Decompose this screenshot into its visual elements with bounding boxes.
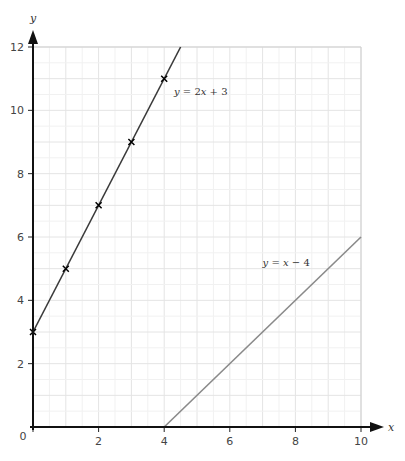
y-tick-label: 6 <box>17 231 24 244</box>
line-chart: 24681024681012 y = 2x + 3y = x − 4 y x 0 <box>0 0 405 461</box>
y-tick-label: 8 <box>17 168 24 181</box>
y-tick-label: 2 <box>17 358 24 371</box>
y-tick-label: 10 <box>10 104 24 117</box>
x-tick-label: 8 <box>292 435 299 448</box>
y-axis-arrow-icon <box>28 30 38 44</box>
x-axis-label: x <box>388 421 395 434</box>
x-tick-label: 10 <box>354 435 368 448</box>
x-tick-label: 4 <box>161 435 168 448</box>
x-axis-arrow-icon <box>370 422 384 432</box>
y-tick-label: 12 <box>10 41 24 54</box>
series-equation-label: y = x − 4 <box>262 257 310 268</box>
y-axis-label: y <box>29 12 37 25</box>
series-equation-label: y = 2x + 3 <box>173 86 228 97</box>
axis-ticks: 24681024681012 <box>10 41 368 448</box>
origin-label: 0 <box>20 430 27 443</box>
x-tick-label: 6 <box>226 435 233 448</box>
y-tick-label: 4 <box>17 294 24 307</box>
axes: y x 0 <box>20 12 396 443</box>
x-tick-label: 2 <box>95 435 102 448</box>
